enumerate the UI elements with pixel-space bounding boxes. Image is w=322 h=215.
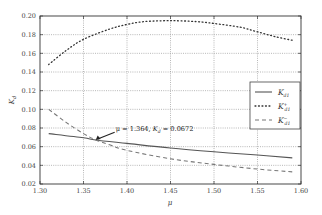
y-tick-label: 0.10 xyxy=(22,106,36,114)
annotation-text: μ = 1.364, Kd = 0.0672 xyxy=(116,125,194,134)
y-tick-label: 0.16 xyxy=(22,50,36,58)
y-tick-label: 0.18 xyxy=(22,31,36,39)
x-tick-label: 1.55 xyxy=(250,187,264,195)
x-axis-label: μ xyxy=(168,199,173,207)
x-tick-label: 1.45 xyxy=(163,187,177,195)
y-tick-label: 0.04 xyxy=(22,162,36,170)
x-tick-label: 1.35 xyxy=(76,187,90,195)
y-tick-label: 0.08 xyxy=(22,124,36,132)
annotation-arrow xyxy=(98,132,115,139)
annotation: μ = 1.364, Kd = 0.0672 xyxy=(96,125,194,140)
legend-box xyxy=(250,82,300,129)
y-tick-label: 0.02 xyxy=(22,180,36,188)
y-tick-label: 0.20 xyxy=(22,12,36,20)
x-tick-label: 1.50 xyxy=(207,187,221,195)
x-tick-label: 1.60 xyxy=(294,187,308,195)
x-tick-label: 1.40 xyxy=(120,187,134,195)
legend: Kd1K+d1K−d1 xyxy=(250,82,300,129)
y-tick-label: 0.06 xyxy=(22,143,36,151)
y-tick-label: 0.14 xyxy=(22,68,36,76)
line-chart: 1.301.351.401.451.501.551.60 0.020.040.0… xyxy=(0,0,322,215)
y-axis-label: Kd xyxy=(8,96,17,105)
y-tick-label: 0.12 xyxy=(22,87,36,95)
